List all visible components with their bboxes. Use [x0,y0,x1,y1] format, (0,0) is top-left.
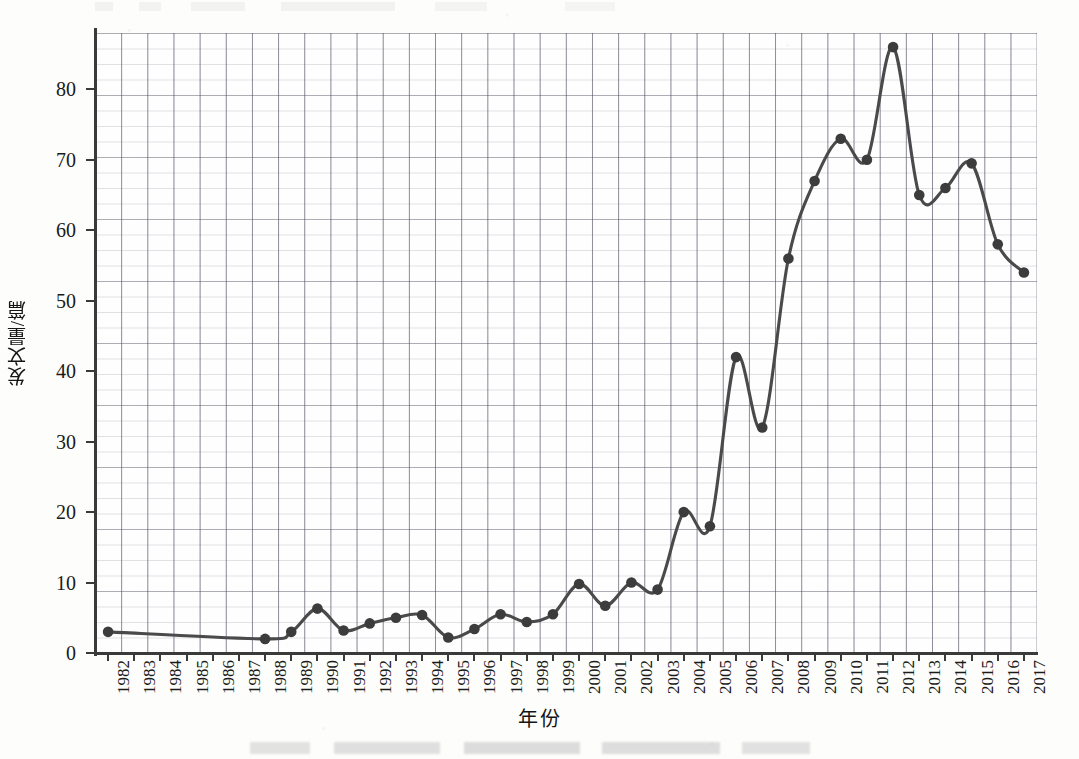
x-tick-mark [316,653,318,661]
y-tick-mark [86,159,95,161]
data-point-marker [705,521,716,532]
x-tick-label: 2017 [1031,660,1048,694]
x-tick-label: 1992 [377,660,394,694]
x-tick-label: 2013 [926,660,943,694]
x-tick-mark [526,653,528,661]
data-series-plot [95,33,1037,653]
x-tick-label: 1995 [455,660,472,694]
data-point-marker [678,507,689,518]
x-tick-mark [473,653,475,661]
x-tick-mark [159,653,161,661]
x-tick-label: 1991 [351,660,368,694]
data-point-marker [914,190,925,201]
data-point-marker [469,624,480,635]
x-tick-mark [892,653,894,661]
x-tick-label: 2007 [769,660,786,694]
data-point-marker [731,352,742,363]
data-point-marker [757,422,768,433]
x-tick-label: 1983 [141,660,158,694]
x-tick-label: 2010 [848,660,865,694]
data-point-marker [338,625,349,636]
x-tick-mark [290,653,292,661]
y-tick-mark [86,370,95,372]
x-tick-mark [709,653,711,661]
x-tick-mark [238,653,240,661]
data-point-marker [548,609,559,620]
data-point-marker [992,239,1003,250]
x-tick-mark [395,653,397,661]
x-tick-mark [787,653,789,661]
x-tick-label: 1985 [194,660,211,694]
x-tick-mark [369,653,371,661]
data-point-marker [260,634,271,645]
x-tick-label: 2011 [874,660,891,693]
x-tick-label: 2004 [691,660,708,694]
x-tick-mark [657,653,659,661]
y-tick-mark [86,511,95,513]
x-tick-label: 1990 [324,660,341,694]
x-tick-mark [107,653,109,661]
x-tick-label: 1996 [481,660,498,694]
data-point-marker [809,176,820,187]
x-tick-mark [1023,653,1025,661]
y-tick-label: 30 [18,432,76,452]
data-point-marker [391,612,402,623]
x-tick-mark [343,653,345,661]
data-point-marker [312,603,323,614]
data-point-marker [1019,267,1030,278]
x-tick-label: 1989 [298,660,315,694]
series-line [108,47,1024,639]
x-tick-mark [264,653,266,661]
data-point-marker [783,253,794,264]
series-markers [103,42,1029,644]
x-tick-mark [500,653,502,661]
x-tick-mark [997,653,999,661]
y-tick-mark [86,441,95,443]
data-point-marker [835,133,846,144]
x-tick-label: 1988 [272,660,289,694]
x-tick-label: 2000 [586,660,603,694]
y-tick-mark [86,88,95,90]
x-tick-label: 2009 [822,660,839,694]
x-tick-mark [578,653,580,661]
x-tick-label: 1986 [220,660,237,694]
data-point-marker [966,158,977,169]
y-tick-label: 80 [18,79,76,99]
x-tick-label: 1997 [508,660,525,694]
y-tick-mark [86,300,95,302]
x-tick-label: 2008 [795,660,812,694]
scan-bleed-caption [250,742,810,754]
x-tick-label: 2014 [952,660,969,694]
data-point-marker [600,601,611,612]
y-tick-label: 70 [18,150,76,170]
y-axis-title: 发文量/篇 [8,300,27,386]
x-tick-mark [133,653,135,661]
x-tick-mark [604,653,606,661]
data-point-marker [286,627,297,638]
data-point-marker [652,584,663,595]
x-tick-label: 1999 [560,660,577,694]
x-tick-mark [866,653,868,661]
x-tick-mark [186,653,188,661]
x-tick-mark [447,653,449,661]
y-tick-label: 0 [18,643,76,663]
y-tick-label: 20 [18,502,76,522]
x-tick-mark [552,653,554,661]
data-point-marker [626,577,637,588]
x-tick-label: 1993 [403,660,420,694]
x-tick-label: 2016 [1005,660,1022,694]
y-tick-label: 10 [18,573,76,593]
x-tick-mark [840,653,842,661]
x-tick-mark [735,653,737,661]
y-tick-mark [86,229,95,231]
scan-bleed-top [95,2,615,11]
x-tick-mark [683,653,685,661]
x-axis-title: 年份 [0,703,1079,732]
data-point-marker [443,632,454,643]
data-point-marker [940,183,951,194]
data-point-marker [862,155,873,166]
x-tick-label: 1982 [115,660,132,694]
data-point-marker [888,42,899,53]
data-point-marker [574,579,585,590]
x-tick-mark [814,653,816,661]
